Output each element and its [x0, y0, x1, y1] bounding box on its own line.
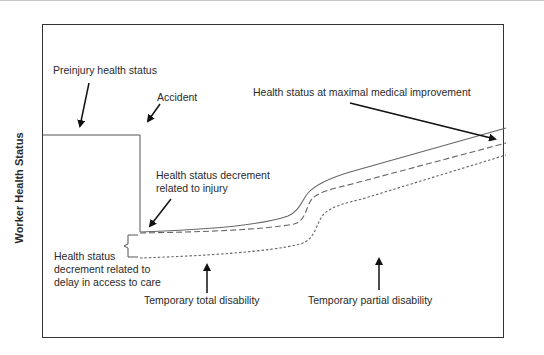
ttd-label: Temporary total disability [144, 294, 260, 307]
injury-decrement-label-line1: Health status decrement [156, 169, 270, 182]
preinjury-label: Preinjury health status [53, 64, 157, 77]
mmi-label: Health status at maximal medical improve… [253, 86, 471, 99]
injury-decrement-arrow [150, 199, 171, 226]
tpd-label: Temporary partial disability [308, 294, 432, 307]
delay-label-line1: Health status [54, 250, 115, 263]
injury-decrement-label-line2: related to injury [156, 182, 228, 195]
preinjury-status-line [43, 135, 140, 232]
mmi-arrow [350, 103, 495, 139]
accident-label: Accident [157, 91, 197, 104]
diagram-canvas [0, 0, 544, 355]
accident-arrow [148, 104, 160, 121]
delay-bracket [124, 235, 138, 257]
delay-label-line3: delay in access to care [54, 276, 161, 289]
preinjury-arrow [80, 83, 89, 126]
delay-label-line2: decrement related to [54, 263, 150, 276]
